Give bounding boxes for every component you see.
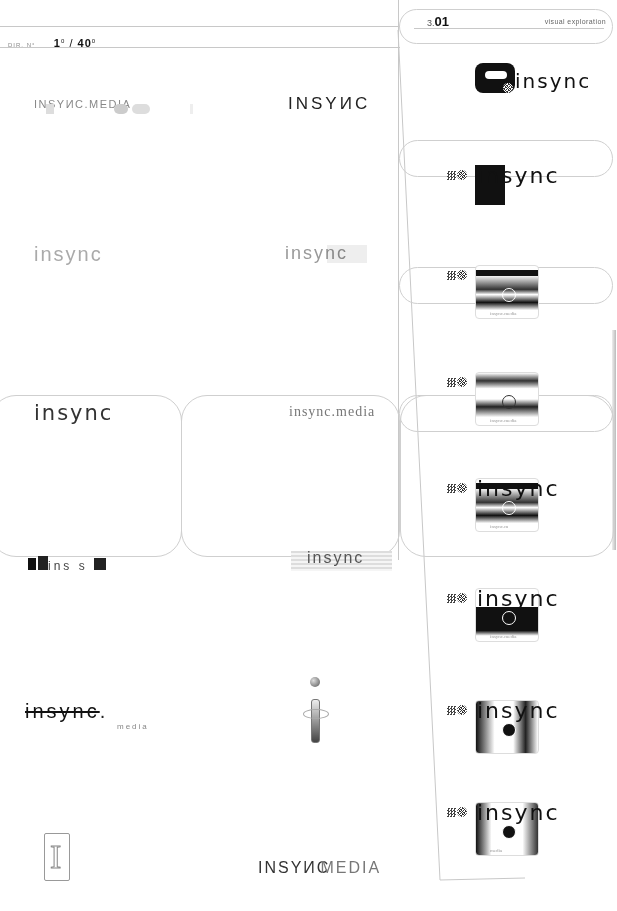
dir-label: DIR. N° bbox=[8, 42, 35, 48]
globe-i-icon bbox=[303, 677, 327, 743]
exploration-3: insync.media bbox=[447, 265, 597, 327]
logo-variant-3: insync bbox=[34, 243, 103, 266]
section-number: 3.01 bbox=[427, 14, 449, 29]
logo-variant-9: insync. media bbox=[25, 700, 105, 723]
logo-variant-6: insync.media bbox=[289, 404, 375, 420]
directory-indicator: DIR. N° 10 / 400 bbox=[8, 33, 96, 51]
top-rule bbox=[0, 26, 400, 27]
dir-current: 1 bbox=[54, 37, 61, 49]
exploration-2: insync bbox=[447, 165, 597, 215]
section-label: visual exploration bbox=[545, 18, 606, 25]
logo-variant-8: insync bbox=[291, 551, 392, 571]
dir-total: 40 bbox=[78, 37, 92, 49]
logo-variant-12: INSYИCMEDIA bbox=[258, 859, 381, 877]
exploration-4: insync.media bbox=[447, 372, 597, 434]
logo-variant-5: insync bbox=[34, 401, 113, 425]
exploration-1: insync bbox=[475, 63, 595, 108]
logo-variant-4: insync bbox=[285, 243, 348, 264]
exploration-7: insync bbox=[447, 700, 597, 762]
logo-variant-2: INSYИC bbox=[288, 94, 370, 114]
exploration-8: media insync bbox=[447, 802, 597, 864]
logo-variant-11: I bbox=[44, 833, 70, 881]
exploration-5: insync.m insync bbox=[447, 478, 597, 540]
exploration-6: insync.media insync bbox=[447, 588, 597, 650]
section-header-pill: 3.01 visual exploration bbox=[399, 9, 613, 44]
logo-variant-1: INSYИC.MEDIA bbox=[34, 94, 131, 112]
logo-variant-7: ins s bbox=[28, 556, 106, 573]
